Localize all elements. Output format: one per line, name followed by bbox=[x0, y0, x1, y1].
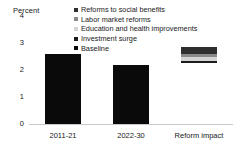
legend-item-label: Baseline bbox=[81, 44, 109, 53]
legend-swatch-icon bbox=[74, 46, 78, 50]
legend-item[interactable]: Investment surge bbox=[74, 34, 197, 44]
legend: Reforms to social benefitsLabor market r… bbox=[74, 5, 197, 53]
legend-swatch-icon bbox=[74, 27, 78, 31]
legend-swatch-icon bbox=[74, 37, 78, 41]
y-axis-tick-0: 0 bbox=[8, 120, 24, 128]
legend-item[interactable]: Reforms to social benefits bbox=[74, 5, 197, 15]
stack-segment bbox=[181, 61, 217, 64]
legend-item-label: Investment surge bbox=[81, 34, 137, 43]
bar-chart: Percent 4 3 2 1 0 2011-21 2022-30 Reform… bbox=[0, 0, 239, 150]
x-axis-label-reform-impact: Reform impact bbox=[165, 131, 233, 140]
legend-item-label: Reforms to social benefits bbox=[81, 5, 165, 14]
legend-item-label: Labor market reforms bbox=[81, 15, 151, 24]
legend-item-label: Education and health improvements bbox=[81, 24, 197, 33]
legend-item[interactable]: Education and health improvements bbox=[74, 24, 197, 34]
legend-item[interactable]: Labor market reforms bbox=[74, 15, 197, 25]
x-axis-label-2022-30: 2022-30 bbox=[97, 131, 165, 140]
x-axis-line bbox=[29, 124, 233, 125]
bar-2022-30 bbox=[113, 65, 149, 124]
y-axis-tick-1: 1 bbox=[8, 93, 24, 101]
x-axis-label-2011-21: 2011-21 bbox=[29, 131, 97, 140]
legend-swatch-icon bbox=[74, 8, 78, 12]
bar-2011-21 bbox=[45, 54, 81, 124]
legend-swatch-icon bbox=[74, 17, 78, 21]
y-axis-tick-4: 4 bbox=[8, 12, 24, 20]
y-axis-tick-3: 3 bbox=[8, 39, 24, 47]
legend-item[interactable]: Baseline bbox=[74, 43, 197, 53]
y-axis-tick-2: 2 bbox=[8, 66, 24, 74]
